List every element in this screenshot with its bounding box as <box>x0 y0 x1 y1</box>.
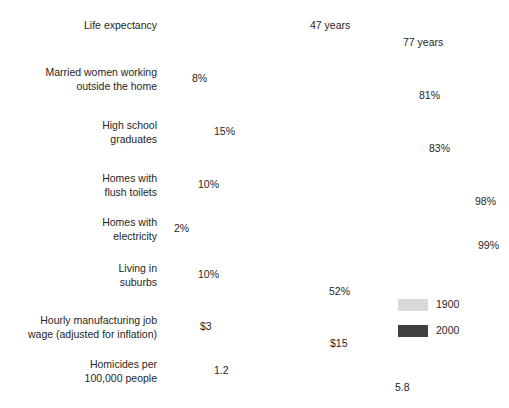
bar-track-2000: 5.8 <box>161 381 389 394</box>
row-category-label: Hourly manufacturing job wage (adjusted … <box>0 314 157 341</box>
bar-track-2000: 77 years <box>161 36 397 49</box>
chart-row: Homicides per 100,000 people 1.2 5.8 <box>0 364 509 400</box>
legend-label-2000: 2000 <box>436 323 459 338</box>
bar-track-1900: 15% <box>161 125 208 138</box>
bar-value-1900: 1.2 <box>214 363 229 377</box>
chart-row: Homes with electricity 2% 99% <box>0 222 509 258</box>
bar-value-1900: 15% <box>214 124 235 138</box>
row-category-label: High school graduates <box>0 119 157 146</box>
bar-track-1900: 1.2 <box>161 364 208 377</box>
chart-row: Homes with flush toilets 10% 98% <box>0 178 509 214</box>
legend-swatch-2000 <box>398 325 428 337</box>
bar-value-1900: 47 years <box>310 18 350 32</box>
bar-track-2000: $15 <box>161 337 324 350</box>
bar-value-2000: 99% <box>478 238 499 252</box>
bar-track-1900: 2% <box>161 222 168 235</box>
comparison-bar-chart: Life expectancy 47 years 77 years Marrie… <box>0 0 509 408</box>
row-category-label: Homes with flush toilets <box>0 172 157 199</box>
bar-value-2000: 83% <box>429 141 450 155</box>
row-category-label: Life expectancy <box>0 19 157 33</box>
row-category-label: Homicides per 100,000 people <box>0 358 157 385</box>
chart-row: High school graduates 15% 83% <box>0 125 509 161</box>
bar-value-2000: 5.8 <box>395 380 410 394</box>
chart-row: Married women working outside the home 8… <box>0 72 509 108</box>
bar-track-2000: 83% <box>161 142 423 155</box>
bar-track-1900: 10% <box>161 268 192 281</box>
bar-value-1900: 10% <box>198 267 219 281</box>
bar-track-1900: 8% <box>161 72 186 85</box>
bar-value-2000: 98% <box>475 194 496 208</box>
bar-value-2000: $15 <box>330 336 348 350</box>
chart-row: Life expectancy 47 years 77 years <box>0 19 509 55</box>
bar-track-1900: 47 years <box>161 19 304 32</box>
legend-swatch-1900 <box>398 299 428 311</box>
bar-value-1900: 2% <box>174 221 189 235</box>
bar-value-1900: 10% <box>198 177 219 191</box>
bar-track-2000: 81% <box>161 89 413 102</box>
bar-track-2000: 52% <box>161 285 323 298</box>
chart-legend: 1900 2000 <box>398 297 503 349</box>
bar-track-1900: 10% <box>161 178 192 191</box>
bar-value-2000: 81% <box>419 88 440 102</box>
bar-value-2000: 77 years <box>403 35 443 49</box>
row-category-label: Homes with electricity <box>0 216 157 243</box>
row-category-label: Living in suburbs <box>0 262 157 289</box>
bar-track-2000: 98% <box>161 195 469 208</box>
bar-value-2000: 52% <box>329 284 350 298</box>
legend-item-2000[interactable]: 2000 <box>398 323 503 349</box>
legend-label-1900: 1900 <box>436 297 459 312</box>
legend-item-1900[interactable]: 1900 <box>398 297 503 323</box>
bar-value-1900: $3 <box>200 319 212 333</box>
bar-value-1900: 8% <box>192 71 207 85</box>
bar-track-1900: $3 <box>161 320 194 333</box>
bar-track-2000: 99% <box>161 239 472 252</box>
row-category-label: Married women working outside the home <box>0 66 157 93</box>
